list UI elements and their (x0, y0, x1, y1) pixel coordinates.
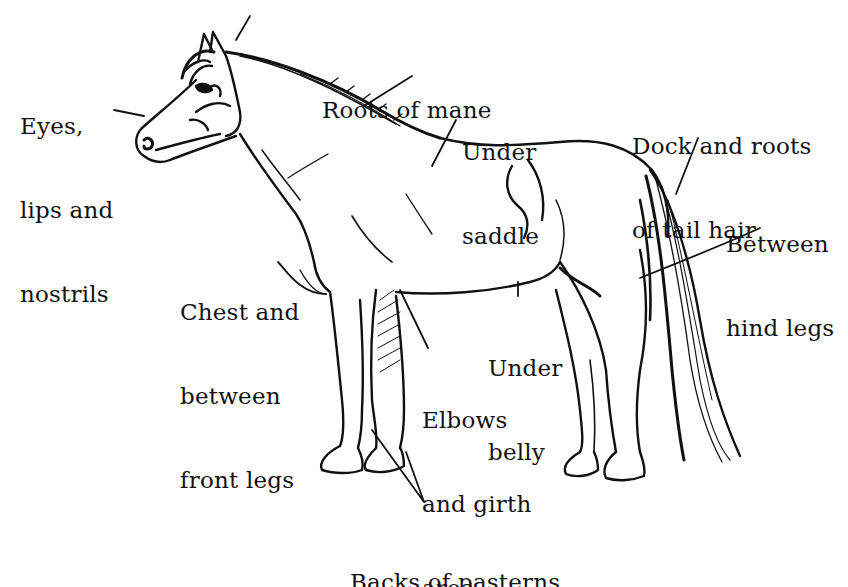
leader-elbow (400, 290, 428, 348)
label-under-saddle: Under saddle (462, 82, 539, 306)
label-eyes-lips-nostrils: Eyes, lips and nostrils (20, 56, 113, 364)
leader-mane-top (236, 16, 250, 40)
horse-front-legs (321, 290, 404, 473)
horse-diagram: Eyes, lips and nostrils Roots of mane Un… (0, 0, 848, 587)
label-backs-of-pasterns: Backs of pasterns and lower legs (350, 512, 560, 587)
label-chest-front-legs: Chest and between front legs (180, 242, 299, 550)
label-between-hind-legs: Between hind legs (726, 174, 834, 398)
leader-eyes (114, 110, 144, 116)
leader-pasterns (372, 430, 424, 502)
